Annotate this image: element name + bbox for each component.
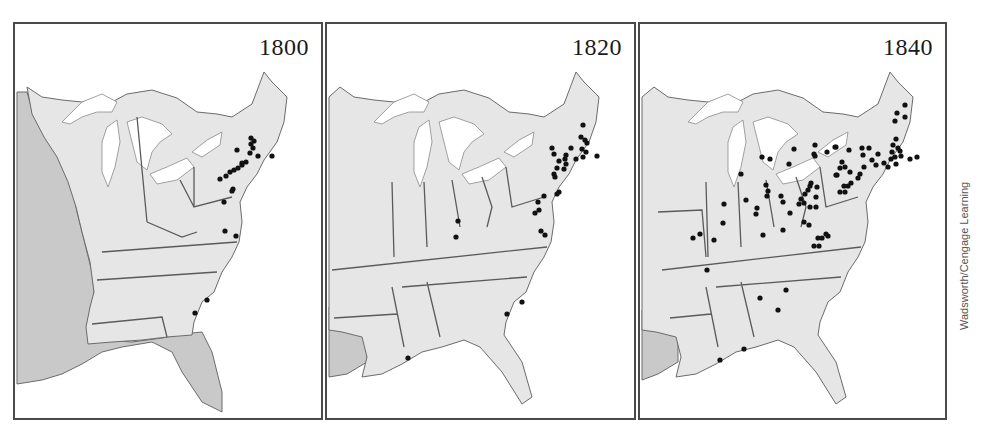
city-dot: [455, 218, 460, 223]
city-dot: [231, 167, 236, 172]
city-dot: [743, 197, 748, 202]
city-dot: [783, 287, 788, 292]
map-panel-1840: 1840: [638, 22, 947, 420]
city-dot: [894, 110, 899, 115]
map-1820: [327, 24, 636, 420]
city-dot: [234, 147, 239, 152]
city-dot: [551, 151, 556, 156]
city-dot: [897, 148, 902, 153]
city-dot: [819, 235, 824, 240]
map-panel-1820: 1820: [325, 22, 636, 420]
city-dot: [893, 136, 898, 141]
city-dot: [767, 156, 772, 161]
map-panel-1800: 1800: [13, 22, 323, 420]
city-dot: [549, 145, 554, 150]
city-dot: [552, 174, 557, 179]
credit-text: Wadsworth/Cengage Learning: [958, 182, 970, 330]
city-dot: [814, 184, 819, 189]
city-dot: [837, 189, 842, 194]
city-dot: [562, 156, 567, 161]
city-dot: [741, 346, 746, 351]
city-dot: [247, 150, 252, 155]
city-dot: [892, 118, 897, 123]
city-dot: [568, 145, 573, 150]
city-dot: [859, 145, 864, 150]
city-dot: [855, 175, 860, 180]
city-dot: [217, 176, 222, 181]
city-dot: [556, 158, 561, 163]
city-dot: [504, 311, 509, 316]
city-dot: [583, 149, 588, 154]
city-dot: [778, 193, 783, 198]
city-dot: [717, 357, 722, 362]
city-dot: [753, 211, 758, 216]
city-dot: [787, 210, 792, 215]
city-dot: [807, 204, 812, 209]
year-label: 1840: [883, 34, 933, 61]
city-dot: [824, 149, 829, 154]
city-dot: [738, 171, 743, 176]
city-dot: [563, 161, 568, 166]
year-label: 1800: [259, 34, 309, 61]
city-dot: [801, 200, 806, 205]
city-dot: [881, 160, 886, 165]
year-label: 1820: [572, 34, 622, 61]
city-dot: [890, 142, 895, 147]
city-dot: [861, 164, 866, 169]
city-dot: [760, 232, 765, 237]
city-dot: [255, 153, 260, 158]
city-dot: [893, 161, 898, 166]
map-1840: [640, 24, 947, 420]
city-dot: [889, 149, 894, 154]
city-dot: [453, 234, 458, 239]
city-dot: [223, 173, 228, 178]
city-dot: [754, 205, 759, 210]
city-dot: [720, 220, 725, 225]
city-dot: [806, 222, 811, 227]
city-dot: [594, 153, 599, 158]
city-dot: [775, 307, 780, 312]
city-dot: [222, 228, 227, 233]
city-dot: [192, 310, 197, 315]
city-dot: [812, 153, 817, 158]
city-dot: [875, 151, 880, 156]
city-dot: [519, 299, 524, 304]
city-dot: [885, 164, 890, 169]
city-dot: [764, 193, 769, 198]
city-dot: [239, 160, 244, 165]
city-dot: [801, 219, 806, 224]
city-dot: [711, 237, 716, 242]
city-dot: [532, 210, 537, 215]
city-dot: [837, 165, 842, 170]
city-dot: [204, 297, 209, 302]
city-dot: [816, 243, 821, 248]
city-dot: [812, 142, 817, 147]
base-map: [642, 72, 913, 404]
city-dot: [697, 231, 702, 236]
base-map: [329, 72, 599, 404]
city-dot: [250, 145, 255, 150]
city-dot: [561, 166, 566, 171]
city-dot: [573, 156, 578, 161]
city-dot: [690, 235, 695, 240]
base-map: [17, 72, 287, 412]
city-dot: [869, 157, 874, 162]
city-dot: [825, 233, 830, 238]
city-dot: [811, 243, 816, 248]
city-dot: [902, 114, 907, 119]
city-dot: [813, 194, 818, 199]
city-dot: [221, 199, 226, 204]
city-dot: [898, 153, 903, 158]
city-dot: [538, 228, 543, 233]
city-dot: [791, 146, 796, 151]
city-dot: [873, 162, 878, 167]
city-dot: [233, 233, 238, 238]
city-dot: [845, 183, 850, 188]
city-dot: [902, 102, 907, 107]
city-dot: [866, 145, 871, 150]
city-dot: [907, 156, 912, 161]
city-dot: [721, 201, 726, 206]
city-dot: [704, 267, 709, 272]
city-dot: [796, 201, 801, 206]
city-dot: [542, 232, 547, 237]
